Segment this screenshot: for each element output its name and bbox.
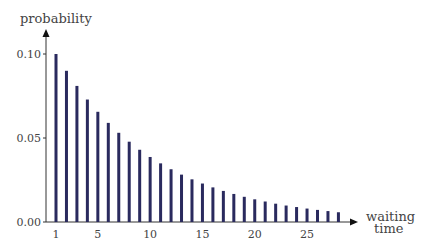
x-tick-label: 20 [248,228,262,241]
y-tick-label: 0.05 [17,132,42,145]
bar [316,210,319,222]
bar [295,207,298,222]
bar [264,202,267,222]
x-tick-label: 10 [143,228,157,241]
x-axis-arrow-icon [350,219,358,226]
bar [96,112,99,222]
bar-chart: 0.000.050.101510152025 [0,0,426,248]
bar [117,133,120,222]
bar [211,187,214,222]
bar [107,123,110,222]
bar [75,86,78,222]
x-tick-label: 5 [94,228,101,241]
y-axis-arrow-icon [43,29,50,37]
y-tick-label: 0.10 [17,48,42,61]
bar [149,157,152,222]
bar [232,194,235,222]
bar [190,179,193,222]
bar [180,175,183,222]
x-axis-label-line2: time [374,222,403,235]
bar [201,184,204,222]
x-tick-label: 15 [195,228,209,241]
bar [170,169,173,222]
bar [306,209,309,222]
bar [253,199,256,222]
bar [337,212,340,222]
y-axis-label: probability [20,12,92,25]
bar [55,54,58,222]
y-tick-label: 0.00 [17,216,42,229]
bar [222,191,225,222]
bar [274,204,277,222]
x-tick-label: 25 [300,228,314,241]
bar [285,206,288,222]
bar [326,211,329,222]
bar [159,163,162,222]
bar [65,71,68,222]
bar [243,197,246,222]
x-tick-label: 1 [53,228,60,241]
bar [138,150,141,222]
bar [128,142,131,222]
bar [86,100,89,222]
